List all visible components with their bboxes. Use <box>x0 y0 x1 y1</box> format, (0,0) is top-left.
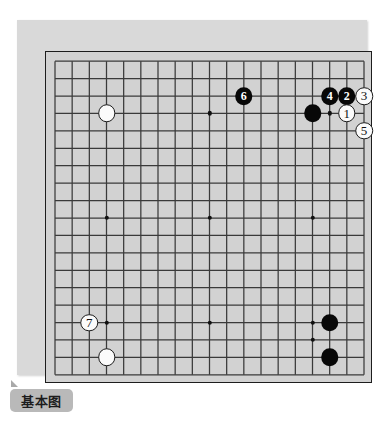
stone-white-lower-left[interactable] <box>98 349 116 367</box>
stone-white-upper-left-star[interactable] <box>98 105 116 123</box>
stone-move-1[interactable]: 1 <box>338 105 356 123</box>
stone-black-lower-right-a[interactable] <box>321 314 339 332</box>
stone-move-2[interactable]: 2 <box>338 87 356 105</box>
go-board-panel: 6423157 <box>17 20 367 375</box>
stone-black-lower-right-b[interactable] <box>321 349 339 367</box>
stone-move-3[interactable]: 3 <box>355 87 373 105</box>
stone-move-6[interactable]: 6 <box>235 87 253 105</box>
stone-number: 6 <box>241 90 247 102</box>
stone-black-upper-right[interactable] <box>304 105 322 123</box>
stone-number: 5 <box>361 124 368 137</box>
stone-move-7[interactable]: 7 <box>81 314 99 332</box>
stone-number: 4 <box>327 90 333 102</box>
stone-number: 3 <box>361 90 368 103</box>
caption-fold-corner <box>11 380 18 387</box>
stone-move-5[interactable]: 5 <box>355 122 373 140</box>
stone-number: 1 <box>344 107 351 120</box>
stone-number: 2 <box>344 90 350 102</box>
caption-tab: 基本图 <box>10 389 73 412</box>
go-board-grid[interactable]: 6423157 <box>45 51 372 383</box>
stone-move-4[interactable]: 4 <box>321 87 339 105</box>
caption-label: 基本图 <box>21 391 62 410</box>
stone-number: 7 <box>86 316 93 329</box>
